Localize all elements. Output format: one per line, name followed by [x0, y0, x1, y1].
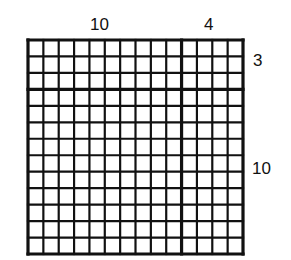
area-grid [0, 0, 291, 260]
